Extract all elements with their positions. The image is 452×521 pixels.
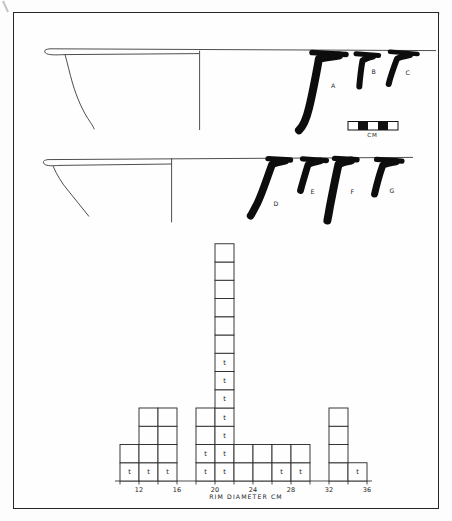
histogram-cell — [329, 426, 348, 444]
sherd-label-d: D — [274, 200, 279, 207]
sherd-f-body — [327, 161, 351, 221]
figure-canvas: A B C CM D E F G 12162024283236ttttttttt… — [0, 0, 452, 521]
sherd-label-b: B — [372, 68, 376, 75]
rim-interior-line — [43, 160, 171, 166]
t-marker: t — [280, 468, 283, 476]
t-marker: t — [223, 395, 226, 403]
histogram-cell — [329, 445, 348, 463]
t-marker: t — [204, 468, 207, 476]
histogram-cell — [253, 463, 272, 481]
scale-bar-label: CM — [367, 132, 378, 138]
scan-edge-artifact — [3, 1, 8, 12]
scale-bar-black-segment — [358, 122, 368, 131]
vessel-wall-outline — [53, 166, 89, 217]
sherd-label-c: C — [406, 69, 410, 76]
t-marker: t — [299, 468, 302, 476]
histogram-cell — [120, 445, 139, 463]
histogram-cell — [158, 408, 177, 426]
vessel-profile-bottom: D E F G — [43, 157, 413, 222]
t-marker: t — [223, 450, 226, 458]
tick-label: 28 — [287, 486, 295, 494]
histogram-cell — [329, 463, 348, 481]
vessel-wall-outline — [65, 55, 94, 130]
scale-bar-black-segment — [378, 122, 388, 131]
sherd-label-a: A — [331, 82, 336, 89]
histogram-cell — [329, 408, 348, 426]
sherd-d-body — [251, 161, 285, 216]
histogram-cell — [215, 280, 234, 298]
histogram-cell — [196, 408, 215, 426]
rim-line — [50, 49, 436, 51]
histogram-cell — [234, 463, 253, 481]
t-marker: t — [204, 450, 207, 458]
sherd-e-body — [301, 161, 321, 191]
histogram-cell — [158, 426, 177, 444]
histogram-cell — [215, 335, 234, 353]
tick-label: 16 — [173, 486, 181, 494]
sherd-label-e: E — [311, 188, 315, 195]
histogram-cell — [253, 445, 272, 463]
scale-bar-outline — [348, 122, 398, 131]
histogram-cell — [139, 408, 158, 426]
t-marker: t — [223, 432, 226, 440]
histogram-cell — [158, 445, 177, 463]
histogram-cell — [215, 262, 234, 280]
t-marker: t — [223, 377, 226, 385]
histogram-cell — [196, 426, 215, 444]
tick-label: 12 — [135, 486, 143, 494]
histogram-cell — [272, 445, 291, 463]
t-marker: t — [223, 359, 226, 367]
tick-label: 32 — [325, 486, 333, 494]
x-axis-title: RIM DIAMETER CM — [209, 493, 283, 500]
histogram-cell — [139, 445, 158, 463]
tick-label: 36 — [363, 486, 371, 494]
sherd-a-body — [299, 56, 339, 131]
histogram-cell — [139, 426, 158, 444]
t-marker: t — [147, 468, 150, 476]
histogram-cell — [291, 445, 310, 463]
histogram-cell — [215, 299, 234, 317]
histogram-cell — [215, 244, 234, 262]
t-marker: t — [166, 468, 169, 476]
sherd-label-g: G — [390, 187, 395, 194]
t-marker: t — [223, 414, 226, 422]
t-marker: t — [356, 468, 359, 476]
histogram-cell — [234, 445, 253, 463]
t-marker: t — [223, 468, 226, 476]
scale-bar: CM — [348, 122, 398, 139]
vessel-profile-top: A B C — [45, 49, 436, 130]
rim-diameter-histogram: 12162024283236ttttttttttttttt — [115, 244, 372, 494]
histogram-cell — [215, 317, 234, 335]
sherd-label-f: F — [351, 188, 355, 195]
t-marker: t — [128, 468, 131, 476]
